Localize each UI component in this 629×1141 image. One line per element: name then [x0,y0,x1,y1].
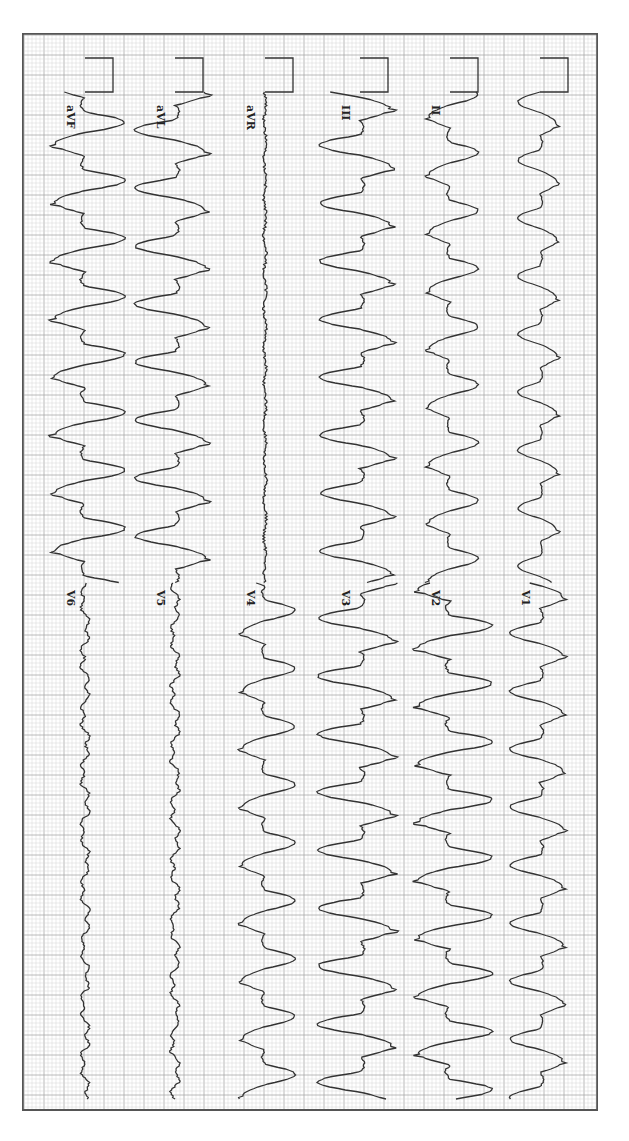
lead-trace-V3 [317,583,399,1099]
lead-trace-V2 [413,583,493,1099]
lead-label-aVR: aVR [244,105,257,131]
lead-label-V3: V3 [339,589,352,606]
ecg-grid [24,35,596,1109]
lead-labels: V1IIV2IIIV3aVRV4aVLV5aVFV6 [64,105,532,607]
lead-label-V1: V1 [519,589,532,606]
lead-label-V6: V6 [64,589,77,607]
lead-label-V2: V2 [429,589,442,606]
lead-label-V4: V4 [244,589,257,607]
ecg-chart: V1IIV2IIIV3aVRV4aVLV5aVFV6 [0,0,629,1141]
lead-trace-V4 [238,583,296,1099]
lead-label-aVL: aVL [154,105,167,129]
lead-trace-aVR [263,92,268,583]
lead-label-II: II [429,105,442,115]
lead-trace-V1 [509,583,567,1099]
lead-label-III: III [339,105,352,120]
lead-label-aVF: aVF [64,105,77,129]
lead-label-V5: V5 [154,589,167,606]
lead-trace-V6 [80,583,90,1099]
lead-trace-aVF [49,92,126,583]
lead-trace-V5 [170,583,181,1099]
lead-trace-III [319,92,396,583]
